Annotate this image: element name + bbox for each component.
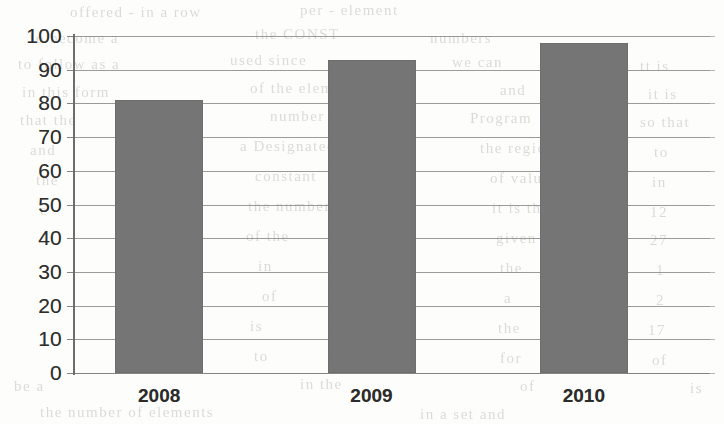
y-axis-label-30: 30 xyxy=(38,260,62,284)
y-tick-right-50 xyxy=(709,205,715,206)
y-axis-label-50: 50 xyxy=(38,193,62,217)
bar-2009 xyxy=(328,60,416,373)
plot-area xyxy=(73,36,710,373)
y-tick-right-60 xyxy=(709,171,715,172)
x-axis-label-2009: 2009 xyxy=(350,385,392,407)
bar-2008 xyxy=(115,100,203,373)
y-axis-label-80: 80 xyxy=(38,91,62,115)
y-tick-right-100 xyxy=(709,36,715,37)
x-axis-label-2008: 2008 xyxy=(138,385,180,407)
y-axis-label-0: 0 xyxy=(50,361,62,385)
y-axis-label-20: 20 xyxy=(38,294,62,318)
bar-2010 xyxy=(540,43,628,373)
y-axis-label-70: 70 xyxy=(38,125,62,149)
x-axis-label-2010: 2010 xyxy=(563,385,605,407)
y-tick-right-0 xyxy=(709,373,715,374)
y-tick-right-90 xyxy=(709,70,715,71)
y-axis-label-60: 60 xyxy=(38,159,62,183)
y-tick-right-70 xyxy=(709,137,715,138)
y-tick-right-40 xyxy=(709,238,715,239)
bar-chart: 1009080706050403020100 200820092010 xyxy=(0,0,724,424)
chart-page: offered - in a rowper - elementto become… xyxy=(0,0,724,424)
gridline-0 xyxy=(73,373,710,374)
y-tick-right-80 xyxy=(709,103,715,104)
y-axis-labels: 1009080706050403020100 xyxy=(0,36,62,373)
y-axis-label-100: 100 xyxy=(26,24,62,48)
y-axis-label-10: 10 xyxy=(38,327,62,351)
y-tick-right-10 xyxy=(709,339,715,340)
y-axis-label-90: 90 xyxy=(38,58,62,82)
gridline-100 xyxy=(73,36,710,37)
y-tick-right-20 xyxy=(709,306,715,307)
y-axis-label-40: 40 xyxy=(38,226,62,250)
y-axis-line xyxy=(73,34,75,375)
y-tick-right-30 xyxy=(709,272,715,273)
